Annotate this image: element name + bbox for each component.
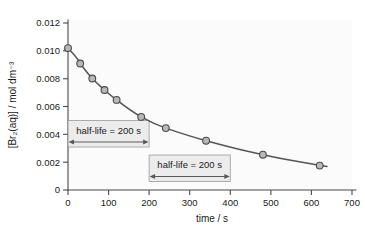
- data-point: [113, 97, 120, 104]
- data-point: [89, 75, 96, 82]
- y-tick-label: 0.006: [36, 101, 60, 112]
- y-tick-label: 0.012: [36, 17, 60, 28]
- x-axis-title: time / s: [196, 213, 228, 224]
- x-tick-label: 0: [65, 197, 70, 208]
- x-tick-label: 600: [303, 197, 319, 208]
- data-point: [138, 114, 145, 121]
- annotation-half-life-1: half-life = 200 s: [68, 121, 149, 148]
- annotation-label-1: half-life = 200 s: [76, 125, 141, 136]
- data-point: [203, 137, 210, 144]
- data-point: [77, 60, 84, 67]
- x-tick-label: 700: [344, 197, 360, 208]
- x-axis-tick-labels: 0 100 200 300 400 500 600 700: [65, 197, 360, 208]
- annotation-label-2: half-life = 200 s: [157, 159, 222, 170]
- y-tick-label: 0.002: [36, 157, 60, 168]
- x-tick-label: 400: [222, 197, 238, 208]
- y-axis-tick-labels: 0 0.002 0.004 0.006 0.008 0.010 0.012: [36, 17, 60, 195]
- x-tick-label: 200: [141, 197, 157, 208]
- y-axis-title: [Br₂(aq)] / mol dm⁻³: [7, 61, 18, 148]
- annotation-half-life-2: half-life = 200 s: [149, 155, 230, 182]
- data-point: [316, 162, 323, 169]
- y-tick-label: 0.004: [36, 129, 60, 140]
- chart-canvas: 0 0.002 0.004 0.006 0.008 0.010 0.012 0 …: [0, 0, 365, 229]
- y-tick-label: 0.008: [36, 73, 60, 84]
- x-tick-label: 300: [182, 197, 198, 208]
- y-tick-label: 0: [55, 184, 60, 195]
- data-point: [260, 151, 267, 158]
- decay-chart-figure: 0 0.002 0.004 0.006 0.008 0.010 0.012 0 …: [0, 0, 365, 229]
- data-point: [101, 87, 108, 94]
- x-axis-ticks: [68, 190, 352, 195]
- x-tick-label: 100: [101, 197, 117, 208]
- y-tick-label: 0.010: [36, 45, 60, 56]
- data-point: [162, 125, 169, 132]
- data-point: [65, 45, 72, 52]
- x-tick-label: 500: [263, 197, 279, 208]
